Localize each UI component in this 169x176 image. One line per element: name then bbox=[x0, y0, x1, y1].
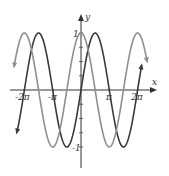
curve-arrow-icon bbox=[15, 128, 20, 134]
x-tick-label-neg-2pi: -2π bbox=[15, 92, 31, 102]
curve-arrow-icon bbox=[138, 63, 143, 69]
x-tick-label-2pi: 2π bbox=[130, 92, 144, 102]
y-axis-label: y bbox=[84, 12, 91, 22]
x-tick-label-neg-pi: -π bbox=[48, 92, 58, 102]
x-axis-arrow-icon bbox=[150, 87, 157, 93]
y-tick-label-neg1: -1 bbox=[72, 143, 81, 153]
y-axis-arrow-icon bbox=[78, 14, 84, 21]
x-axis-label: x bbox=[152, 77, 157, 87]
curve-arrow-icon bbox=[12, 62, 17, 68]
x-tick-label-pi: π bbox=[105, 92, 113, 102]
trig-graph: x y 1 -1 -2π -π π 2π bbox=[0, 0, 169, 176]
curve-arrow-icon bbox=[144, 57, 149, 63]
y-tick-label-1: 1 bbox=[73, 29, 79, 39]
